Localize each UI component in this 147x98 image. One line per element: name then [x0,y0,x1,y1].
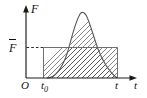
force-time-figure: F F O t0 t t [0,0,147,98]
rect-hatch-group [20,0,147,90]
y-axis-label: F [31,3,38,15]
average-force-label: F [9,39,16,54]
x-tick-label-t: t [115,80,118,91]
x-tick-label-t0: t0 [41,80,48,94]
origin-label: O [21,80,29,91]
x-axis-label: t [134,80,137,91]
y-axis-arrow-icon [23,5,29,13]
t0-subscript: 0 [44,85,48,94]
average-force-symbol: F [9,41,16,55]
